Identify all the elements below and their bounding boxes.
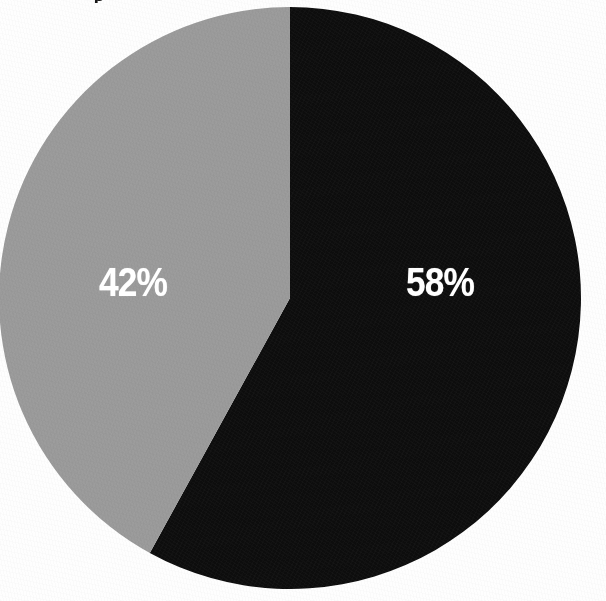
pie-chart-figure: p 42% 58% — [0, 0, 606, 601]
pie-slice-label-gray: 42% — [73, 262, 193, 303]
pie-slice-label-dark: 58% — [380, 262, 500, 303]
